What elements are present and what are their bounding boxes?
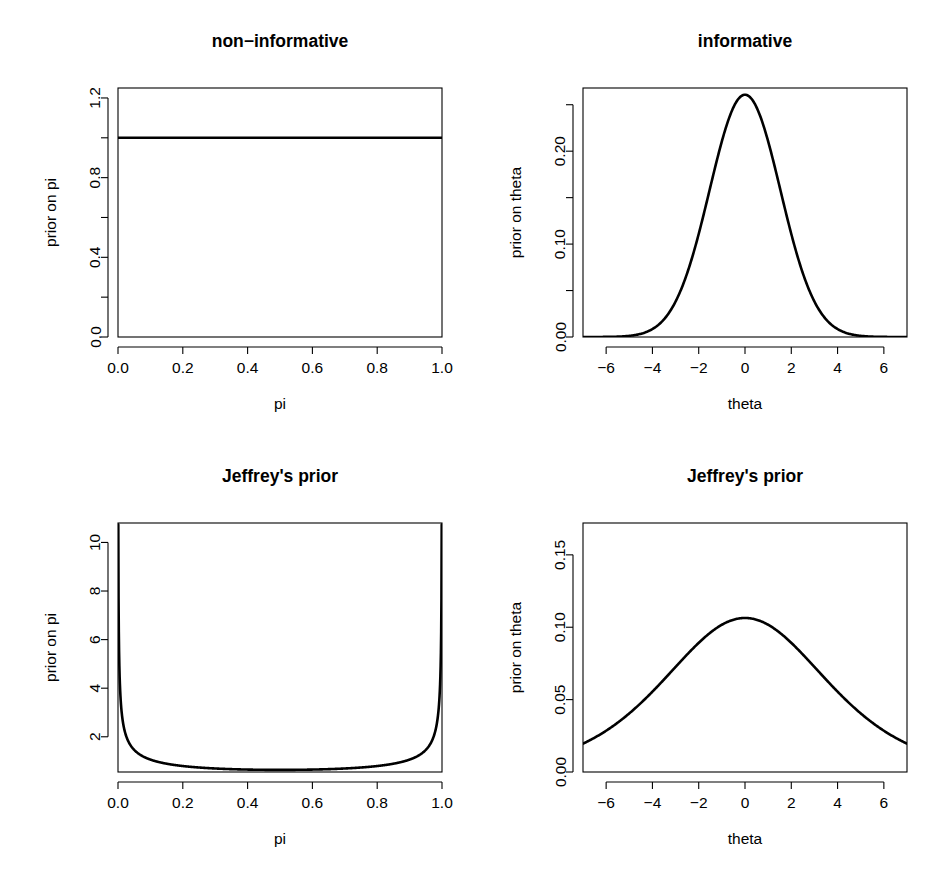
y-tick-label: 0.4: [87, 246, 104, 268]
y-tick-label: 0.20: [552, 136, 569, 167]
plot-panel-jeffreys-pi: Jeffrey's prior0.00.20.40.60.81.0246810p…: [0, 435, 465, 870]
y-tick-label: 0.05: [552, 685, 569, 715]
panel-title: informative: [698, 31, 793, 51]
x-tick-label: −6: [597, 794, 615, 811]
x-tick-label: 0.0: [107, 359, 129, 376]
plot-box: [118, 523, 442, 772]
plot-panel-jeffreys-theta: Jeffrey's prior−6−4−202460.000.050.100.1…: [465, 435, 930, 870]
x-tick-label: −2: [690, 794, 708, 811]
x-tick-label: 2: [787, 794, 796, 811]
x-tick-label: −4: [644, 359, 662, 376]
y-tick-label: 2: [87, 732, 104, 741]
y-tick-label: 4: [87, 684, 104, 693]
x-tick-label: −6: [597, 359, 615, 376]
x-tick-label: 0: [741, 794, 750, 811]
data-curve: [118, 525, 441, 770]
x-axis-label: pi: [274, 830, 286, 847]
x-tick-label: 6: [880, 794, 889, 811]
figure-canvas: non−informative0.00.20.40.60.81.00.00.40…: [0, 0, 931, 870]
plot-box: [583, 88, 907, 337]
x-tick-label: 0: [741, 359, 750, 376]
y-axis-label: prior on pi: [42, 613, 59, 682]
plot-panel-non-informative: non−informative0.00.20.40.60.81.00.00.40…: [0, 0, 465, 435]
y-tick-label: 6: [87, 635, 104, 644]
x-axis-label: pi: [274, 395, 286, 412]
plot-box: [118, 88, 442, 337]
x-axis-label: theta: [728, 395, 763, 412]
x-tick-label: 0.2: [172, 359, 194, 376]
data-curve: [583, 618, 907, 744]
panel-title: non−informative: [212, 31, 349, 51]
y-tick-label: 0.10: [552, 612, 569, 643]
x-tick-label: −2: [690, 359, 708, 376]
data-curve: [583, 95, 907, 337]
x-tick-label: 4: [833, 359, 842, 376]
x-axis-label: theta: [728, 830, 763, 847]
y-tick-label: 0.00: [552, 757, 569, 788]
x-tick-label: 0.4: [237, 794, 259, 811]
x-tick-label: 4: [833, 794, 842, 811]
x-tick-label: 0.6: [302, 794, 324, 811]
panel-title: Jeffrey's prior: [222, 466, 338, 486]
y-tick-label: 0.8: [87, 167, 104, 189]
x-tick-label: 1.0: [431, 794, 453, 811]
x-tick-label: 2: [787, 359, 796, 376]
y-axis-label: prior on theta: [507, 166, 524, 258]
x-tick-label: 0.8: [366, 794, 388, 811]
y-tick-label: 0.0: [87, 326, 104, 348]
x-tick-label: 0.8: [366, 359, 388, 376]
y-tick-label: 0.15: [552, 540, 569, 570]
y-tick-label: 0.10: [552, 229, 569, 260]
panel-title: Jeffrey's prior: [687, 466, 803, 486]
x-tick-label: 0.2: [172, 794, 194, 811]
y-axis-label: prior on pi: [42, 178, 59, 247]
x-tick-label: 1.0: [431, 359, 453, 376]
y-tick-label: 10: [87, 533, 104, 551]
y-tick-label: 8: [87, 587, 104, 596]
y-tick-label: 1.2: [87, 87, 104, 109]
plot-box: [583, 523, 907, 772]
x-tick-label: 0.0: [107, 794, 129, 811]
x-tick-label: 0.4: [237, 359, 259, 376]
x-tick-label: 6: [880, 359, 889, 376]
x-tick-label: 0.6: [302, 359, 324, 376]
plot-panel-informative: informative−6−4−202460.000.100.20thetapr…: [465, 0, 930, 435]
x-tick-label: −4: [644, 794, 662, 811]
y-axis-label: prior on theta: [507, 601, 524, 693]
y-tick-label: 0.00: [552, 322, 569, 353]
